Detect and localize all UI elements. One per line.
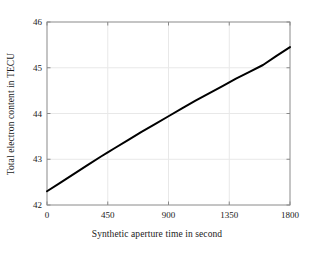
x-tick-label: 1350 [220, 210, 239, 220]
x-tick-label: 1800 [281, 210, 300, 220]
y-tick-label: 44 [33, 109, 43, 119]
x-tick-labels-group: 045090013501800 [45, 210, 300, 220]
chart-plot-area: 045090013501800 4243444546 [0, 0, 314, 253]
y-tick-label: 42 [33, 200, 42, 210]
y-axis-label-container: Total electron content in TECU [0, 0, 22, 228]
y-tick-label: 45 [33, 63, 43, 73]
y-axis-label: Total electron content in TECU [6, 53, 16, 175]
y-tick-label: 46 [33, 17, 43, 27]
x-axis-label: Synthetic aperture time in second [0, 229, 314, 239]
y-tick-label: 43 [33, 154, 43, 164]
chart-figure: 045090013501800 4243444546 Total electro… [0, 0, 314, 253]
gridlines-group [47, 22, 290, 205]
x-tick-label: 900 [162, 210, 176, 220]
y-tick-labels-group: 4243444546 [33, 17, 43, 210]
x-tick-label: 0 [45, 210, 50, 220]
x-tick-label: 450 [101, 210, 115, 220]
